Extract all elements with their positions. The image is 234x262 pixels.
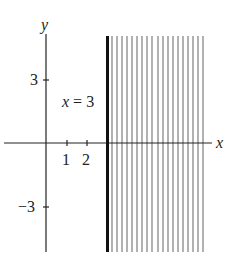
y-tick-label-neg3: −3 [18,198,35,215]
x-axis-label: x [215,134,223,151]
equation-rest: = 3 [69,93,94,110]
graph-canvas: y x 1 2 3 −3 x = 3 [0,0,234,262]
y-tick-label-3: 3 [30,71,38,88]
shaded-region-hatch [112,36,203,252]
y-axis-label: y [39,16,49,34]
x-tick-label-1: 1 [62,151,70,168]
boundary-equation-label: x = 3 [61,93,94,110]
x-tick-label-2: 2 [82,151,90,168]
